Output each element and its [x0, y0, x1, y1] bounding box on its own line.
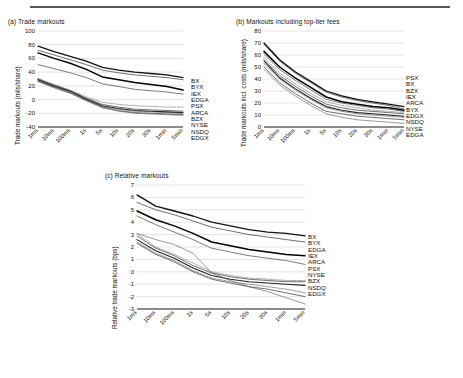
panel-a-svg: -40-200204060801001ms10ms100ms1s5s10s20s…	[8, 25, 208, 153]
series-line-psx	[264, 43, 404, 107]
x-tick-label: 5s	[204, 309, 213, 318]
x-tick-label: 1s	[303, 127, 312, 136]
panel-c-plot: Relative trade markouts (bps) -3-2-10123…	[105, 179, 335, 339]
x-tick-label: 10s	[220, 309, 231, 320]
svg-text:20: 20	[254, 100, 261, 106]
panel-a-title: (a) Trade markouts	[8, 18, 208, 25]
svg-text:40: 40	[254, 76, 261, 82]
panel-c-svg: -3-2-1012345671ms10ms100ms1s5s10s20s30s1…	[105, 179, 335, 339]
svg-text:5: 5	[131, 207, 135, 213]
svg-text:60: 60	[28, 55, 35, 61]
svg-text:-1: -1	[129, 281, 135, 287]
x-tick-label: 100ms	[54, 127, 71, 144]
panel-b-ylabel: Trade markouts incl. costs (mils/share)	[240, 39, 247, 147]
panel-c-ylabel: Relative trade markouts (bps)	[111, 246, 118, 329]
x-tick-label: 100ms	[158, 309, 175, 326]
svg-text:30: 30	[254, 88, 261, 94]
x-tick-label: 10ms	[41, 127, 55, 141]
svg-text:40: 40	[28, 69, 35, 75]
panel-b-svg: 010203040506070801ms10ms100ms1s5s10s20s3…	[236, 25, 432, 153]
panel-b-title: (b) Markouts including top-tier fees	[236, 18, 432, 25]
x-tick-label: 5min	[293, 309, 306, 322]
svg-text:7: 7	[131, 182, 135, 188]
figure-page: (a) Trade markouts Trade markouts (mils/…	[0, 0, 463, 378]
x-tick-label: 10s	[332, 127, 343, 138]
x-tick-label: 100ms	[279, 127, 296, 144]
panel-a-plot: Trade markouts (mils/share) -40-20020406…	[8, 25, 208, 153]
x-tick-label: 1ms	[253, 127, 265, 139]
x-tick-label: 1s	[78, 127, 87, 136]
svg-text:2: 2	[131, 244, 135, 250]
panel-c-relative-markouts: (c) Relative markouts Relative trade mar…	[105, 172, 335, 339]
panel-a-ylabel: Trade markouts (mils/share)	[14, 67, 21, 146]
series-line-bzx	[137, 242, 305, 293]
svg-text:1: 1	[131, 256, 135, 262]
series-line-byx	[38, 50, 183, 79]
x-tick-label: 20s	[239, 309, 250, 320]
series-line-arca	[38, 79, 183, 111]
svg-text:0: 0	[131, 269, 135, 275]
x-tick-label: 30s	[258, 309, 269, 320]
svg-text:60: 60	[254, 52, 261, 58]
x-tick-label: 1min	[274, 309, 287, 322]
panel-c-title: (c) Relative markouts	[105, 172, 335, 179]
x-tick-label: 1s	[185, 309, 194, 318]
legend-item-edgx: EDGX	[308, 291, 326, 297]
top-divider-rule	[30, 6, 450, 8]
legend-item-edgx: EDGX	[191, 135, 209, 141]
series-line-psx	[38, 78, 183, 107]
panel-b-legend: PSXBXBZXIEXARCABYXEDGXNSDQNYSEEDGA	[406, 75, 424, 138]
x-tick-label: 30s	[363, 127, 374, 138]
series-line-psx	[137, 236, 305, 282]
svg-text:50: 50	[254, 64, 261, 70]
svg-text:100: 100	[25, 28, 36, 34]
series-line-bx	[137, 195, 305, 236]
x-tick-label: 1ms	[126, 309, 138, 321]
panel-b-markouts-with-fees: (b) Markouts including top-tier fees Tra…	[236, 18, 432, 153]
svg-text:70: 70	[254, 40, 261, 46]
series-line-nyse	[137, 240, 305, 286]
series-line-bx	[38, 46, 183, 78]
x-tick-label: 5s	[318, 127, 327, 136]
legend-item-edga: EDGA	[406, 132, 424, 138]
svg-text:-20: -20	[26, 110, 35, 116]
series-line-edga	[264, 69, 404, 123]
x-tick-label: 10ms	[142, 309, 156, 323]
x-tick-label: 10s	[108, 127, 119, 138]
x-tick-label: 1min	[376, 127, 389, 140]
svg-text:80: 80	[28, 42, 35, 48]
x-tick-label: 30s	[141, 127, 152, 138]
x-tick-label: 1min	[154, 127, 167, 140]
x-tick-label: 20s	[347, 127, 358, 138]
x-tick-label: 20s	[125, 127, 136, 138]
svg-text:4: 4	[131, 219, 135, 225]
svg-text:6: 6	[131, 194, 135, 200]
svg-text:0: 0	[32, 97, 36, 103]
x-tick-label: 5min	[392, 127, 405, 140]
x-tick-label: 5s	[95, 127, 104, 136]
panel-b-plot: Trade markouts incl. costs (mils/share) …	[236, 25, 432, 153]
svg-text:80: 80	[254, 28, 261, 34]
panel-a-trade-markouts: (a) Trade markouts Trade markouts (mils/…	[8, 18, 208, 153]
panel-c-legend: BXBYXEDGAIEXARCAPSXNYSEBZXNSDQEDGX	[308, 234, 326, 297]
series-line-byx	[264, 60, 404, 114]
svg-text:20: 20	[28, 83, 35, 89]
x-tick-label: 5min	[171, 127, 184, 140]
svg-text:10: 10	[254, 112, 261, 118]
svg-text:-2: -2	[129, 294, 135, 300]
svg-text:3: 3	[131, 232, 135, 238]
panel-a-legend: BXBYXIEXEDGAPSXARCABZXNYSENSDQEDGX	[191, 78, 209, 141]
